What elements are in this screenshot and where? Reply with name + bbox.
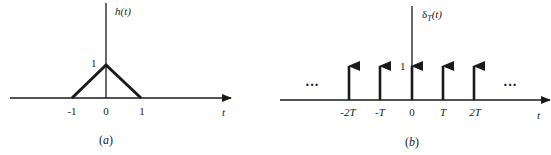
ellipsis-right: ··· — [503, 78, 517, 93]
tick-label-b-2: 0 — [409, 106, 415, 118]
y-axis-label-a: h(t) — [115, 5, 131, 18]
tick-label-a-1: 0 — [103, 105, 109, 117]
caption-b: (b) — [405, 135, 419, 149]
x-axis-label-b: t — [537, 109, 541, 121]
ellipsis-left: ··· — [305, 78, 319, 93]
caption-a: (a) — [99, 133, 113, 147]
impulse-height-label: 1 — [400, 60, 406, 72]
tick-label-a-0: -1 — [67, 105, 76, 117]
tick-label-b-0: -2T — [340, 106, 356, 118]
tick-label-b-4: 2T — [469, 106, 482, 118]
tick-label-b-3: T — [440, 106, 447, 118]
figure-canvas: h(t) 1 -1 0 1 t (a) δT(t) 1 ··· ··· -2T … — [0, 0, 551, 155]
panel-b-impulse-train: δT(t) 1 ··· ··· -2T -T 0 T 2T t (b) — [280, 6, 550, 149]
tick-label-a-2: 1 — [139, 105, 145, 117]
y-axis-label-b: δT(t) — [422, 8, 442, 23]
x-axis-label-a: t — [222, 106, 226, 118]
panel-a-triangle-pulse: h(t) 1 -1 0 1 t (a) — [10, 3, 231, 147]
peak-value-label: 1 — [91, 57, 97, 69]
tick-label-b-1: -T — [375, 106, 386, 118]
